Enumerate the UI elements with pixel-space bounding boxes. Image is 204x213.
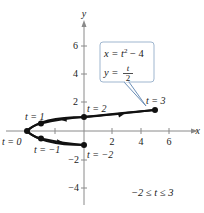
label-t-neg2: t = −2 xyxy=(87,149,113,160)
label-t-2: t = 2 xyxy=(87,103,107,114)
equation-y-lhs: y = xyxy=(103,67,118,78)
y-tick-label-neg4: −4 xyxy=(68,182,79,193)
label-t-3: t = 3 xyxy=(146,95,166,106)
domain-text: −2 ≤ t ≤ 3 xyxy=(131,187,174,198)
parametric-plot: 2 4 6 6 4 2 −2 −4 x y t = 0 t = 1 t = 2 … xyxy=(0,0,204,213)
label-t-neg1: t = −1 xyxy=(34,144,60,155)
point-t-3 xyxy=(152,107,158,113)
y-tick-label-6: 6 xyxy=(73,40,78,51)
point-t-neg2 xyxy=(81,142,87,148)
arrow-icon xyxy=(118,114,124,118)
x-tick-label-6: 6 xyxy=(167,136,172,147)
point-t-0 xyxy=(24,128,30,134)
equation-y-denominator: 2 xyxy=(126,73,131,83)
y-tick-label-neg2: −2 xyxy=(68,154,79,165)
callout-pointer xyxy=(124,82,146,106)
x-axis-label: x xyxy=(195,125,201,136)
point-t-neg1 xyxy=(38,136,44,142)
x-tick-label-2: 2 xyxy=(110,136,115,147)
label-t-0: t = 0 xyxy=(2,136,22,147)
y-axis-label: y xyxy=(81,8,87,19)
y-axis-arrow-icon xyxy=(82,20,87,27)
equation-x: x = t2 − 4 xyxy=(103,47,145,59)
point-t-2 xyxy=(81,114,87,120)
x-tick-label-4: 4 xyxy=(139,136,144,147)
label-t-1: t = 1 xyxy=(25,111,45,122)
y-tick-label-2: 2 xyxy=(73,96,78,107)
y-tick-label-4: 4 xyxy=(73,68,78,79)
